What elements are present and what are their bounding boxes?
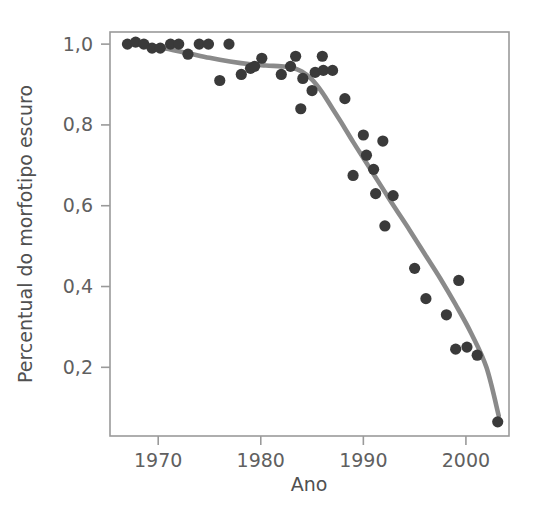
data-point	[450, 344, 461, 355]
data-point	[317, 51, 328, 62]
data-point	[377, 135, 388, 146]
data-point	[339, 93, 350, 104]
data-point	[182, 49, 193, 60]
data-point	[297, 73, 308, 84]
data-point	[327, 65, 338, 76]
data-point	[236, 69, 247, 80]
data-points-layer	[122, 37, 503, 428]
data-point	[388, 190, 399, 201]
data-point	[214, 75, 225, 86]
data-point	[306, 85, 317, 96]
y-axis-tick-labels: 0,20,40,60,81,0	[63, 33, 93, 378]
data-point	[155, 43, 166, 54]
y-axis-title: Percentual do morfotipo escuro	[14, 85, 36, 383]
scatter-plot-svg: 1970198019902000 0,20,40,60,81,0 Ano Per…	[0, 0, 533, 524]
x-axis-ticks	[158, 436, 466, 445]
x-tick-label: 2000	[442, 449, 490, 471]
data-point	[379, 220, 390, 231]
data-point	[173, 39, 184, 50]
data-point	[203, 39, 214, 50]
data-point	[358, 129, 369, 140]
data-point	[461, 342, 472, 353]
data-point	[295, 103, 306, 114]
data-point	[441, 309, 452, 320]
y-tick-label: 0,4	[63, 275, 93, 297]
data-point	[472, 350, 483, 361]
x-tick-label: 1970	[134, 449, 182, 471]
x-tick-label: 1980	[237, 449, 285, 471]
data-point	[223, 39, 234, 50]
x-tick-label: 1990	[339, 449, 387, 471]
y-axis-ticks	[101, 44, 110, 367]
data-point	[290, 51, 301, 62]
y-tick-label: 0,2	[63, 356, 93, 378]
data-point	[347, 170, 358, 181]
data-point	[370, 188, 381, 199]
y-tick-label: 1,0	[63, 33, 93, 55]
trend-curve	[127, 44, 498, 416]
data-point	[256, 53, 267, 64]
data-point	[420, 293, 431, 304]
y-tick-label: 0,8	[63, 113, 93, 135]
data-point	[492, 416, 503, 427]
x-axis-tick-labels: 1970198019902000	[134, 449, 490, 471]
data-point	[409, 263, 420, 274]
data-point	[368, 164, 379, 175]
data-point	[276, 69, 287, 80]
data-point	[453, 275, 464, 286]
data-point	[361, 150, 372, 161]
chart-figure: 1970198019902000 0,20,40,60,81,0 Ano Per…	[0, 0, 533, 524]
y-tick-label: 0,6	[63, 194, 93, 216]
data-point	[285, 61, 296, 72]
x-axis-title: Ano	[291, 473, 328, 495]
